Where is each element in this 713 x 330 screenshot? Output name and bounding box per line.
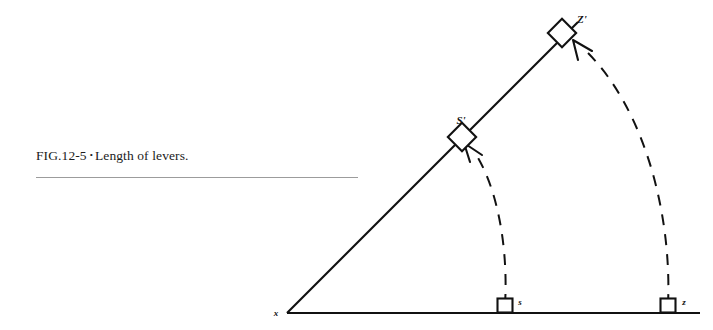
label-s: s (517, 297, 522, 307)
diagonal-ray (287, 22, 578, 313)
outer-arc-dashed (587, 52, 668, 305)
figure-page: FIG.12-5•Length of levers. x s z S' Z' (0, 0, 713, 330)
label-s-prime: S' (456, 114, 465, 126)
baseline-square-z (661, 299, 676, 313)
outer-arc-arrowhead-icon (573, 40, 592, 60)
label-z-prime: Z' (576, 13, 587, 25)
lever-diagram: x s z S' Z' (0, 0, 713, 330)
baseline-square-s (498, 299, 513, 313)
inner-arc-dashed (477, 156, 506, 305)
label-x: x (273, 308, 279, 318)
label-z: z (681, 297, 686, 307)
ray-diamond-z-prime (548, 19, 576, 47)
